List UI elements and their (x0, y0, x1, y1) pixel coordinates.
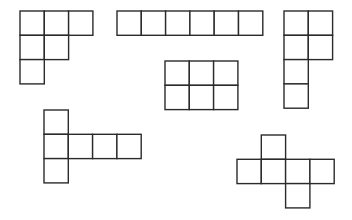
unit-square (68, 134, 92, 158)
net-bottom-right-cross (237, 135, 334, 208)
unit-square (165, 85, 189, 109)
unit-square (69, 11, 93, 35)
unit-square (310, 159, 334, 183)
unit-square (239, 11, 263, 35)
unit-square (214, 11, 238, 35)
unit-square (261, 135, 285, 159)
unit-square (117, 11, 141, 35)
net-middle-2x3-rectangle (165, 61, 238, 110)
unit-square (308, 11, 332, 35)
unit-square (286, 184, 310, 208)
unit-square (308, 35, 332, 59)
unit-square (189, 61, 213, 85)
unit-square (141, 11, 165, 35)
net-top-left-staircase (20, 11, 93, 84)
unit-square (237, 159, 261, 183)
unit-square (44, 11, 68, 35)
unit-square (20, 60, 44, 84)
unit-square (261, 159, 285, 183)
unit-square (93, 134, 117, 158)
net-top-row-of-six (117, 11, 263, 35)
unit-square (284, 35, 308, 59)
unit-square (44, 35, 68, 59)
unit-square (117, 134, 141, 158)
unit-square (165, 61, 189, 85)
unit-square (284, 60, 308, 84)
unit-square (284, 84, 308, 108)
unit-square (44, 110, 68, 134)
net-top-right-p-shape (284, 11, 333, 108)
polyomino-nets-diagram (0, 0, 352, 220)
unit-square (20, 11, 44, 35)
unit-square (44, 134, 68, 158)
net-bottom-left-t-shape (44, 110, 141, 183)
unit-square (214, 85, 238, 109)
unit-square (214, 61, 238, 85)
unit-square (20, 35, 44, 59)
unit-square (189, 85, 213, 109)
unit-square (190, 11, 214, 35)
unit-square (284, 11, 308, 35)
unit-square (166, 11, 190, 35)
unit-square (286, 159, 310, 183)
unit-square (44, 159, 68, 183)
